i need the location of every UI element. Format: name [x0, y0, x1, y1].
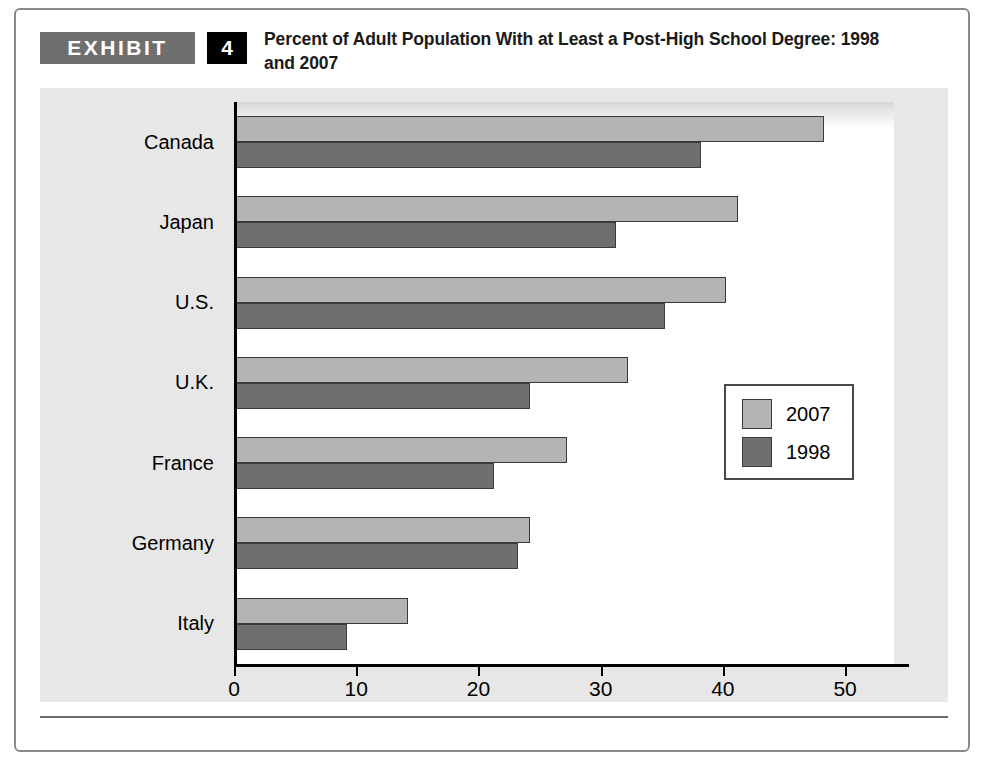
bar-japan-2007	[237, 196, 738, 222]
exhibit-header: EXHIBIT 4 Percent of Adult Population Wi…	[16, 10, 968, 82]
bar-italy-2007	[237, 598, 408, 624]
bar-germany-1998	[237, 543, 518, 569]
bar-france-2007	[237, 437, 567, 463]
x-tick-mark	[478, 664, 480, 676]
x-tick-mark	[234, 664, 236, 676]
x-tick-label: 10	[338, 677, 374, 701]
exhibit-page: EXHIBIT 4 Percent of Adult Population Wi…	[0, 0, 987, 760]
plot-wrapper	[234, 102, 894, 664]
y-axis-category-labels: CanadaJapanU.S.U.K.FranceGermanyItaly	[40, 102, 228, 664]
chart-legend: 2007 1998	[724, 384, 854, 480]
exhibit-number-badge: 4	[207, 32, 247, 64]
y-axis-label: U.S.	[40, 263, 228, 343]
legend-item-2007: 2007	[742, 395, 852, 433]
x-tick-mark	[845, 664, 847, 676]
bar-group	[237, 503, 894, 583]
y-axis-line	[234, 102, 237, 664]
exhibit-frame: EXHIBIT 4 Percent of Adult Population Wi…	[14, 8, 970, 752]
bar-group	[237, 102, 894, 182]
x-tick-label: 40	[705, 677, 741, 701]
x-tick-label: 30	[583, 677, 619, 701]
x-tick-label: 20	[460, 677, 496, 701]
bar-rows	[237, 102, 894, 664]
bar-group	[237, 584, 894, 664]
bar-group	[237, 182, 894, 262]
bar-uk-2007	[237, 357, 628, 383]
bar-us-1998	[237, 303, 665, 329]
bar-group	[237, 263, 894, 343]
x-tick-label: 0	[216, 677, 252, 701]
y-axis-label: Japan	[40, 182, 228, 262]
y-axis-label: Germany	[40, 503, 228, 583]
bar-us-2007	[237, 277, 726, 303]
bar-japan-1998	[237, 222, 616, 248]
y-axis-label: U.K.	[40, 343, 228, 423]
page-title: Percent of Adult Population With at Leas…	[264, 27, 904, 75]
x-axis-ticks: 01020304050	[234, 664, 934, 704]
legend-swatch-2007-icon	[742, 399, 772, 429]
x-tick-mark	[723, 664, 725, 676]
exhibit-badge: EXHIBIT	[40, 32, 195, 64]
x-tick-mark	[601, 664, 603, 676]
y-axis-label: Canada	[40, 102, 228, 182]
plot-area	[234, 102, 894, 664]
bar-france-1998	[237, 463, 494, 489]
bar-uk-1998	[237, 383, 530, 409]
x-tick-mark	[356, 664, 358, 676]
bar-canada-2007	[237, 116, 824, 142]
chart-panel: CanadaJapanU.S.U.K.FranceGermanyItaly 01…	[40, 88, 948, 702]
legend-item-1998: 1998	[742, 433, 852, 471]
bar-canada-1998	[237, 142, 701, 168]
bar-germany-2007	[237, 517, 530, 543]
y-axis-label: Italy	[40, 584, 228, 664]
footer-divider	[40, 716, 948, 718]
legend-label-2007: 2007	[786, 403, 831, 426]
legend-label-1998: 1998	[786, 441, 831, 464]
x-tick-label: 50	[827, 677, 863, 701]
y-axis-label: France	[40, 423, 228, 503]
legend-swatch-1998-icon	[742, 437, 772, 467]
bar-italy-1998	[237, 624, 347, 650]
